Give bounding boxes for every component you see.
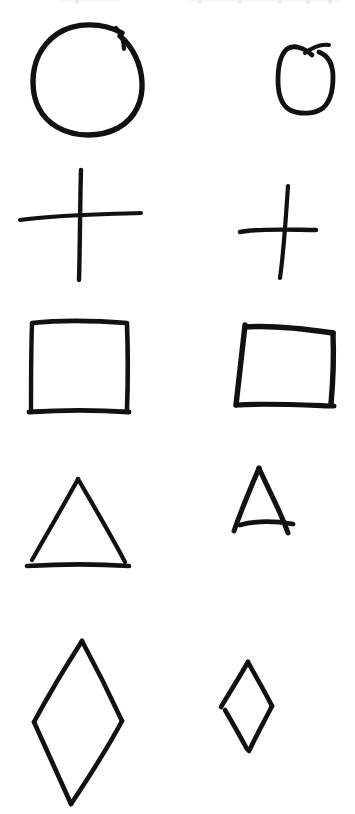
square-large-top	[32, 321, 127, 323]
triangle-large-base	[27, 565, 129, 567]
square-small-bottom	[236, 404, 334, 406]
square-large-bottom	[29, 411, 129, 413]
cross-large-vertical	[79, 170, 81, 280]
figure-canvas	[0, 0, 355, 814]
square-large-left	[31, 324, 32, 409]
cross-small-horizontal	[240, 230, 316, 233]
square-large-right	[127, 324, 128, 409]
handdrawn-shapes-figure: Hand-drawn shape comparison grid Five ro…	[0, 0, 355, 814]
square-small-right	[331, 333, 333, 404]
